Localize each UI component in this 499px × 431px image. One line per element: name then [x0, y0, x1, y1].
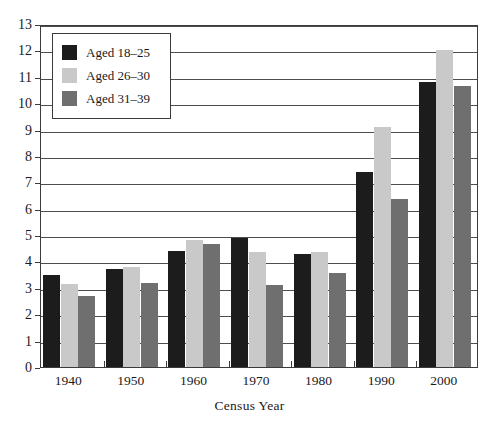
y-tick-label: 13: [18, 18, 32, 32]
bar: [61, 284, 78, 367]
bar: [436, 50, 453, 367]
bar: [356, 172, 373, 367]
y-tick-label: 1: [25, 335, 32, 349]
legend-swatch-icon: [62, 45, 77, 60]
y-tick-label: 8: [25, 150, 32, 164]
x-tick-mark: [416, 361, 417, 367]
bar: [391, 199, 408, 367]
x-axis-title: Census Year: [0, 398, 499, 414]
legend-label: Aged 18–25: [86, 46, 150, 59]
y-tick-label: 11: [19, 71, 32, 85]
legend-item: Aged 26–30: [62, 64, 162, 87]
x-tick-mark: [291, 361, 292, 367]
bar: [374, 127, 391, 367]
y-tick-label: 6: [25, 203, 32, 217]
legend: Aged 18–25Aged 26–30Aged 31–39: [52, 33, 171, 119]
y-tick-label: 3: [25, 282, 32, 296]
bar: [231, 238, 248, 367]
y-tick-label: 7: [25, 176, 32, 190]
bar: [249, 252, 266, 367]
y-tick-label: 5: [25, 229, 32, 243]
x-tick-label: 1990: [368, 374, 395, 388]
bar: [106, 269, 123, 367]
bar: [168, 251, 185, 367]
x-tick-label: 1970: [243, 374, 270, 388]
y-tick-label: 9: [25, 124, 32, 138]
bar: [294, 254, 311, 367]
bar: [203, 244, 220, 367]
x-tick-mark: [354, 361, 355, 367]
y-tick-mark: [35, 368, 40, 369]
x-tick-label: 1940: [55, 374, 82, 388]
x-tick-mark: [229, 361, 230, 367]
x-tick-label: 1980: [305, 374, 332, 388]
bar: [123, 267, 140, 367]
bar: [141, 283, 158, 367]
legend-label: Aged 26–30: [86, 69, 150, 82]
y-tick-label: 0: [25, 361, 32, 375]
x-tick-mark: [104, 361, 105, 367]
x-tick-mark: [166, 361, 167, 367]
legend-item: Aged 31–39: [62, 87, 162, 110]
bar: [186, 240, 203, 367]
y-tick-label: 12: [18, 44, 32, 58]
bar-chart: 012345678910111213 194019501960197019801…: [0, 0, 499, 431]
x-tick-label: 1960: [180, 374, 207, 388]
bar: [311, 252, 328, 367]
bar: [419, 82, 436, 367]
y-axis: 012345678910111213: [0, 0, 40, 431]
y-tick-label: 2: [25, 308, 32, 322]
bar: [78, 296, 95, 367]
bar: [454, 86, 471, 367]
y-tick-label: 4: [25, 255, 32, 269]
legend-item: Aged 18–25: [62, 41, 162, 64]
y-tick-label: 10: [18, 97, 32, 111]
x-tick-label: 1950: [117, 374, 144, 388]
legend-label: Aged 31–39: [86, 92, 150, 105]
legend-swatch-icon: [62, 68, 77, 83]
bar: [43, 275, 60, 367]
x-tick-label: 2000: [430, 374, 457, 388]
bar: [329, 273, 346, 367]
bar: [266, 285, 283, 367]
legend-swatch-icon: [62, 91, 77, 106]
